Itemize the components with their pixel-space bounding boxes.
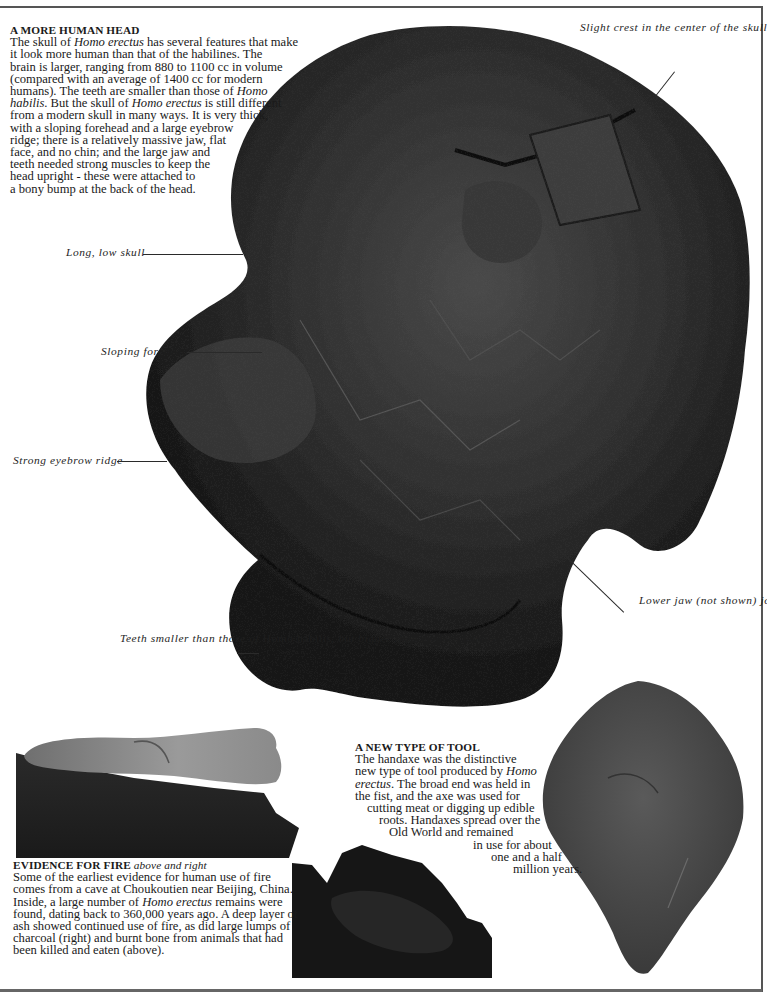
section-body: The skull of Homo erectus has several fe…: [10, 36, 330, 195]
teeth-leader-line: [237, 653, 259, 654]
label-line: Slight crest in the: [580, 21, 671, 33]
sloping-forehead-label: Sloping forehead: [101, 345, 188, 357]
long-low-skull-label: Long, low skull: [66, 246, 145, 258]
evidence-for-fire-section: EVIDENCE FOR FIRE above and right Some o…: [13, 859, 303, 957]
text-line: Inside, a large number of Homo erectus r…: [13, 896, 303, 908]
teeth-label: Teeth smaller than those of Homo habilis…: [120, 632, 505, 644]
eyebrow-ridge-leader-line: [117, 461, 167, 462]
eyebrow-ridge-label: Strong eyebrow ridge: [13, 454, 123, 466]
bottom-rule: [0, 989, 762, 992]
label-line: Lower jaw (not shown): [639, 594, 757, 606]
label-line: human's: [463, 632, 505, 644]
label-line: joins skull here: [760, 594, 767, 606]
more-human-head-section: A MORE HUMAN HEAD The skull of Homo erec…: [10, 24, 330, 195]
text-line: from a modern skull in many ways. It is …: [10, 109, 330, 121]
text-line: million years.: [355, 863, 555, 875]
text-line: a bony bump at the back of the head.: [10, 183, 330, 195]
crest-label: Slight crest in the center of the skull …: [580, 21, 748, 33]
text-line: with a sloping forehead and a large eyeb…: [10, 122, 330, 134]
species-name: Homo habilis,: [263, 632, 335, 644]
burnt-bone-photo: [14, 718, 304, 858]
sloping-forehead-leader-line: [187, 352, 262, 353]
text-line: in use for about: [355, 839, 555, 851]
heading-subtext: above and right: [134, 859, 207, 871]
label-line: center of the skull for: [674, 21, 767, 33]
section-body: Some of the earliest evidence for human …: [13, 871, 303, 956]
handaxe-photo: [538, 678, 748, 978]
long-low-skull-leader-line: [143, 254, 243, 255]
text-line: been killed and eaten (above).: [13, 944, 303, 956]
text-line: it look more human than that of the habi…: [10, 48, 330, 60]
book-page: A MORE HUMAN HEAD The skull of Homo erec…: [0, 0, 767, 995]
section-body: The handaxe was the distinctivenew type …: [355, 753, 555, 875]
text-line: head upright - these were attached to: [10, 170, 330, 182]
text-line: Old World and remained: [355, 826, 555, 838]
lower-jaw-label: Lower jaw (not shown) joins skull here: [639, 594, 767, 606]
label-line: Teeth smaller than: [120, 632, 215, 644]
label-fragment: those of: [219, 632, 263, 644]
new-tool-section: A NEW TYPE OF TOOL The handaxe was the d…: [355, 741, 555, 875]
text-line: erectus. The broad end was held in: [355, 778, 555, 790]
label-line: but bigger than modern: [338, 632, 459, 644]
text-line: brain is larger, ranging from 880 to 110…: [10, 61, 330, 73]
heading-text: EVIDENCE FOR FIRE: [13, 859, 131, 871]
label-line: those of Homo habilis,: [219, 632, 335, 644]
